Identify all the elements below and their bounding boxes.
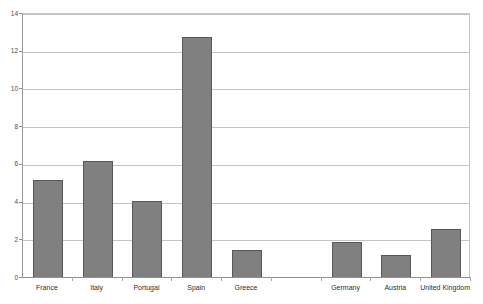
y-tick-label: 12 <box>2 47 18 54</box>
gridline <box>23 89 469 90</box>
x-tick-mark <box>370 277 371 281</box>
bar <box>33 180 63 278</box>
y-tick-mark <box>19 126 22 127</box>
bar <box>232 250 262 278</box>
gridline <box>23 127 469 128</box>
y-tick-label: 14 <box>2 10 18 17</box>
y-tick-mark <box>19 202 22 203</box>
x-tick-mark <box>321 277 322 281</box>
plot-area <box>22 13 470 277</box>
bar <box>431 229 461 278</box>
x-category-label: Portugal <box>122 283 172 292</box>
y-tick-mark <box>19 51 22 52</box>
y-tick-label: 0 <box>2 274 18 281</box>
bar <box>132 201 162 278</box>
x-category-label: Italy <box>72 283 122 292</box>
y-tick-mark <box>19 88 22 89</box>
y-tick-label: 10 <box>2 85 18 92</box>
y-tick-label: 8 <box>2 123 18 130</box>
bar <box>83 161 113 278</box>
bar-chart: 02468101214 FranceItalyPortugalSpainGree… <box>0 0 483 304</box>
y-tick-label: 2 <box>2 236 18 243</box>
y-tick-mark <box>19 277 22 278</box>
x-tick-mark <box>271 277 272 281</box>
y-tick-mark <box>19 164 22 165</box>
x-tick-mark <box>171 277 172 281</box>
y-tick-label: 6 <box>2 160 18 167</box>
x-category-label: Spain <box>171 283 221 292</box>
x-category-label: France <box>22 283 72 292</box>
x-tick-mark <box>72 277 73 281</box>
y-tick-label: 4 <box>2 198 18 205</box>
y-axis: 02468101214 <box>0 0 18 304</box>
y-tick-mark <box>19 239 22 240</box>
chart-title-clipped <box>18 0 348 3</box>
bar <box>381 255 411 278</box>
x-tick-mark <box>420 277 421 281</box>
bar <box>182 37 212 278</box>
x-category-label: United Kingdom <box>420 283 470 292</box>
gridline <box>23 52 469 53</box>
y-tick-mark <box>19 13 22 14</box>
x-tick-mark <box>470 277 471 281</box>
x-category-label: Germany <box>321 283 371 292</box>
x-category-label: Austria <box>370 283 420 292</box>
bar <box>332 242 362 278</box>
x-axis-line <box>22 277 470 278</box>
x-tick-mark <box>122 277 123 281</box>
x-category-label: Greece <box>221 283 271 292</box>
gridline <box>23 14 469 15</box>
x-tick-mark <box>221 277 222 281</box>
